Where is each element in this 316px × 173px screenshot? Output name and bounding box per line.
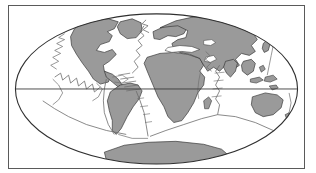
landmass-kamchatka [264, 28, 272, 37]
figure-root: Equator Mollweide globe outline [0, 0, 316, 173]
map-frame: Equator Mollweide globe outline [8, 5, 305, 169]
world-map-svg [9, 6, 304, 168]
